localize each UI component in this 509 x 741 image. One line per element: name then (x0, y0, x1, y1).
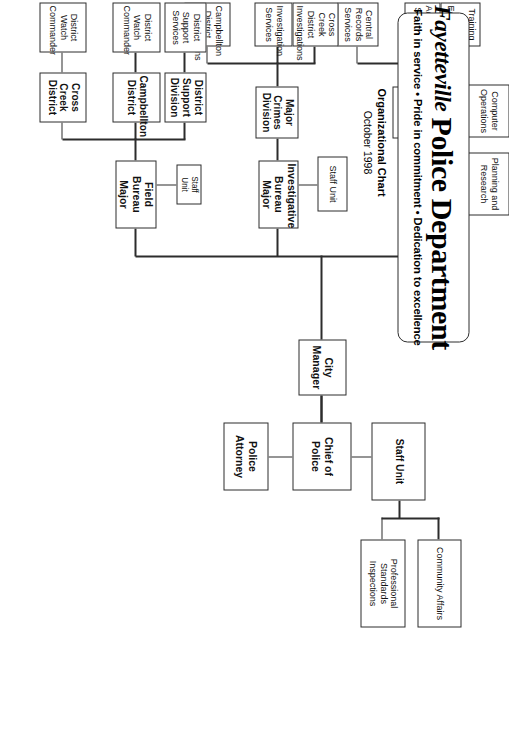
connector-fieldmajor-distsupportdiv (184, 122, 186, 139)
chart-subtitle-line2: October 1998 (360, 52, 373, 232)
node-planning-and-research[interactable]: Planning andResearch (467, 152, 509, 215)
connector-fieldmajor-staffunit (156, 184, 176, 186)
connector-spine-fieldmajor (135, 228, 137, 256)
node-field-staff-unit[interactable]: StaffUnit (176, 164, 201, 204)
node-city-manager[interactable]: CityManager (298, 339, 346, 395)
fayetteville-logo-word: Fayetteville (426, 5, 453, 111)
connector-chief-staffunit (351, 456, 371, 458)
connector-fieldmajor-districts (135, 138, 137, 160)
title-plate: Fayetteville Police Department Faith in … (397, 12, 469, 342)
connector-majorcrimes-children (277, 62, 279, 86)
node-major-crimes-division[interactable]: Major CrimesDivision (255, 86, 298, 138)
connector-bureau-spine-vertical (135, 255, 425, 257)
node-chief-staff-unit[interactable]: Staff Unit (371, 422, 425, 500)
connector-staffunit-spine-vertical (381, 517, 439, 519)
connector-majorcrimes-crosscreekinv (314, 46, 316, 63)
connector-fieldmajor-districts-vertical (62, 138, 185, 140)
connector-crosscreekdist-watch (61, 52, 63, 72)
node-police-attorney[interactable]: Police Attorney (223, 422, 268, 490)
connector-investmajor-staffunit (298, 184, 317, 186)
connector-distsupportdiv-services (184, 52, 186, 72)
connector-fieldmajor-crosscreekdist (61, 122, 63, 139)
connector-techdiv-centralrecords (356, 46, 358, 63)
title-row: Fayetteville Police Department (426, 5, 455, 350)
department-tagline: Faith in service • Pride in commitment •… (411, 9, 423, 345)
connector-majorcrimes-children-vertical (207, 62, 315, 64)
node-campbellton-district-watch-commander[interactable]: DistrictWatchCommander (112, 2, 160, 52)
connector-fieldmajor-campbelltondist (135, 122, 137, 139)
chart-subtitle-line1: Organizational Chart (373, 52, 387, 232)
connector-spine-investmajor (277, 228, 279, 256)
connector-staffunit-spine (399, 500, 401, 518)
connector-investmajor-majorcrimes (277, 138, 279, 160)
node-campbellton-district[interactable]: CampbelltonDistrict (112, 72, 160, 122)
node-chief-of-police[interactable]: Chief of Police (292, 422, 351, 490)
node-investigative-staff-unit[interactable]: Staff Unit (317, 156, 347, 211)
chart-subtitle: Organizational Chart October 1998 (360, 52, 387, 232)
node-central-records-services[interactable]: CentralRecordsServices (337, 2, 378, 46)
node-investigation-services[interactable]: InvestigationServices (254, 2, 292, 46)
node-cross-creek-district-watch-commander[interactable]: DistrictWatchCommander (39, 2, 86, 52)
connector-chief-policeattorney (268, 456, 292, 458)
node-community-affairs[interactable]: Community Affairs (417, 539, 461, 627)
node-computer-operations[interactable]: ComputerOperations (467, 84, 509, 137)
node-professional-standards-inspections[interactable]: ProfessionalStandardsInspections (360, 539, 405, 627)
node-district-support-services[interactable]: DistrictSupportServices (164, 2, 206, 52)
connector-staffunit-psi (381, 517, 383, 539)
connector-staffunit-communityaffairs (438, 517, 440, 539)
node-field-bureau-major[interactable]: FieldBureauMajor (115, 160, 156, 228)
connector-campbelltondist-watch (135, 52, 137, 72)
node-investigative-bureau-major[interactable]: InvestigativeBureau Major (258, 160, 298, 228)
node-district-support-division[interactable]: DistrictSupportDivision (164, 72, 206, 122)
department-name: Police Department (426, 117, 455, 349)
node-cross-creek-district-investigations[interactable]: Cross CreekDistrictInvestigations (292, 2, 338, 46)
node-cross-creek-district[interactable]: CrossCreekDistrict (39, 72, 86, 122)
